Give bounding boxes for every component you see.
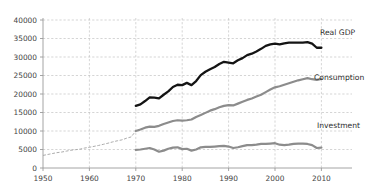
chart-background — [0, 0, 370, 195]
y-tick-label: 30000 — [13, 53, 37, 62]
x-tick-label: 1990 — [219, 174, 238, 183]
y-tick-label: 40000 — [13, 16, 37, 25]
series-label-real-gdp: Real GDP — [320, 28, 356, 37]
y-tick-label: 20000 — [13, 90, 37, 99]
y-tick-label: 10000 — [13, 127, 37, 136]
x-tick-label: 2010 — [312, 174, 331, 183]
series-label-investment: Investment — [317, 121, 360, 130]
y-tick-label: 5000 — [18, 145, 37, 154]
economic-indicators-line-chart: 0500010000150002000025000300003500040000… — [0, 0, 370, 195]
series-label-consumption: Consumption — [314, 73, 364, 82]
y-tick-label: 0 — [32, 164, 37, 173]
x-tick-label: 1980 — [173, 174, 192, 183]
x-tick-label: 1950 — [34, 174, 53, 183]
y-tick-label: 35000 — [13, 34, 37, 43]
chart-canvas: 0500010000150002000025000300003500040000… — [0, 0, 370, 195]
x-tick-label: 1970 — [126, 174, 145, 183]
x-tick-label: 1960 — [80, 174, 99, 183]
y-tick-label: 25000 — [13, 71, 37, 80]
y-tick-label: 15000 — [13, 108, 37, 117]
x-tick-label: 2000 — [266, 174, 285, 183]
